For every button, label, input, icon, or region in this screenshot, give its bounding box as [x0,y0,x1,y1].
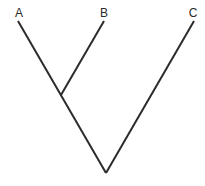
branch-a [18,21,106,173]
taxon-label-a: A [15,6,23,20]
taxon-label-b: B [100,6,108,20]
branch-c [106,21,194,173]
cladogram: A B C [0,0,205,186]
taxon-label-c: C [189,6,198,20]
branch-b [61,21,104,95]
